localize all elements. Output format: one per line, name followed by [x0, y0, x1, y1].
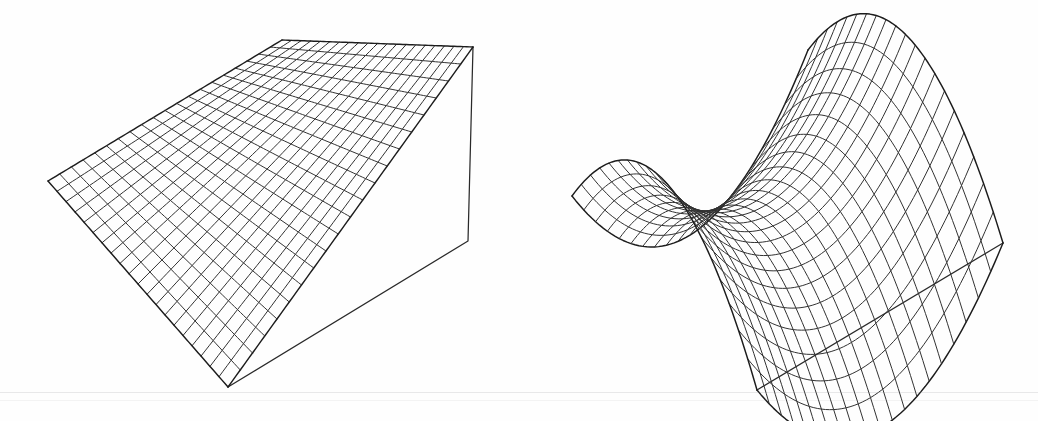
plot-panel-saddle [519, 0, 1038, 421]
scan-artifact-line-upper [0, 392, 1038, 393]
scan-artifact-line-lower [0, 400, 1038, 401]
saddle-wireframe [519, 0, 1038, 421]
plot-panel-flat-plane [0, 0, 519, 421]
figure-canvas [0, 0, 1038, 421]
flat-plane-wireframe [0, 0, 519, 421]
